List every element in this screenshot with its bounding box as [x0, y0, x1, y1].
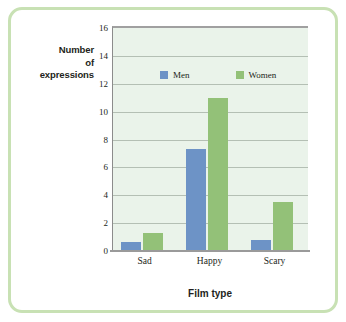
bar-sad-women[interactable]	[143, 233, 163, 251]
x-axis-line	[110, 250, 310, 252]
bar-scary-women[interactable]	[273, 202, 293, 251]
legend-label-women: Women	[249, 70, 277, 80]
legend-item-women: Women	[236, 70, 277, 80]
bar-happy-men[interactable]	[186, 149, 206, 251]
y-axis-tick-label: 0	[104, 246, 109, 256]
chart-figure: Number of expressions 0246810121416 Film…	[0, 0, 346, 322]
x-axis-tick-label-sad: Sad	[137, 256, 151, 266]
y-axis-tick-label: 4	[104, 190, 109, 200]
legend-item-men: Men	[160, 70, 190, 80]
bar-group	[243, 28, 308, 251]
legend-swatch-men	[160, 71, 168, 79]
legend-swatch-women	[236, 71, 244, 79]
x-axis-tick-label-happy: Happy	[197, 256, 222, 266]
y-axis-title-line-2: of	[16, 57, 94, 70]
y-axis-tick-label: 14	[99, 51, 108, 61]
plot-inner: 0246810121416	[113, 28, 308, 251]
x-axis-title: Film type	[112, 288, 308, 299]
y-axis-tick-label: 12	[99, 79, 108, 89]
bar-group	[178, 28, 243, 251]
plot-area: 0246810121416	[112, 26, 308, 251]
y-axis-tick-label: 16	[99, 23, 108, 33]
y-axis-title-line-1: Number	[16, 44, 94, 57]
bar-happy-women[interactable]	[208, 98, 228, 251]
bar-group	[113, 28, 178, 251]
x-axis-tick-label-scary: Scary	[264, 256, 286, 266]
y-axis-tick-label: 10	[99, 107, 108, 117]
y-axis-title-line-3: expressions	[16, 69, 94, 82]
y-axis-tick-label: 2	[104, 218, 109, 228]
y-axis-tick-label: 8	[104, 135, 109, 145]
y-axis-title: Number of expressions	[16, 44, 94, 82]
chart-legend: Men Women	[160, 70, 276, 80]
y-axis-tick-label: 6	[104, 162, 109, 172]
legend-label-men: Men	[173, 70, 190, 80]
